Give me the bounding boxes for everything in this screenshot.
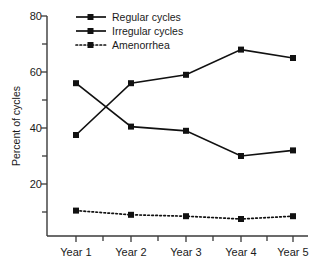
legend-marker-square — [88, 14, 94, 20]
y-tick-label-80: 80 — [30, 10, 42, 22]
data-point-marker[interactable] — [183, 128, 189, 134]
data-point-marker[interactable] — [238, 153, 244, 159]
x-tick-label-year-1: Year 1 — [60, 246, 91, 258]
x-tick-label-year-5: Year 5 — [277, 246, 308, 258]
x-axis-major-ticks — [76, 236, 293, 242]
legend-label: Amenorrhea — [112, 39, 170, 51]
legend-item-amenorrhea[interactable]: Amenorrhea — [76, 39, 170, 51]
data-point-marker[interactable] — [290, 147, 296, 153]
data-point-marker[interactable] — [128, 80, 134, 86]
legend-label: Regular cycles — [112, 11, 181, 23]
series-irregular-cycles — [73, 80, 296, 159]
series-line — [76, 83, 293, 156]
data-point-marker[interactable] — [290, 55, 296, 61]
chart-legend: Regular cycles Irregular cycles Amenorrh… — [76, 11, 183, 51]
data-point-marker[interactable] — [128, 212, 134, 218]
series-line — [76, 50, 293, 135]
legend-item-regular-cycles[interactable]: Regular cycles — [76, 11, 181, 23]
data-point-marker[interactable] — [183, 72, 189, 78]
series-amenorrhea — [73, 208, 296, 222]
data-point-marker[interactable] — [73, 208, 79, 214]
x-tick-label-year-2: Year 2 — [115, 246, 146, 258]
chart-figure: Percent of cycles 80 60 40 20 — [0, 0, 316, 265]
y-axis-title: Percent of cycles — [10, 86, 22, 166]
y-tick-label-60: 60 — [30, 66, 42, 78]
legend-marker-square — [88, 42, 94, 48]
data-point-marker[interactable] — [290, 213, 296, 219]
x-axis-minor-ticks — [103, 236, 267, 241]
data-point-marker[interactable] — [73, 132, 79, 138]
data-point-marker[interactable] — [238, 216, 244, 222]
legend-marker-square — [88, 28, 94, 34]
y-tick-label-40: 40 — [30, 122, 42, 134]
y-tick-label-20: 20 — [30, 178, 42, 190]
x-tick-label-year-3: Year 3 — [170, 246, 201, 258]
line-chart-canvas: Percent of cycles 80 60 40 20 — [0, 0, 316, 265]
data-point-marker[interactable] — [183, 213, 189, 219]
data-point-marker[interactable] — [73, 80, 79, 86]
data-series-layer — [73, 47, 296, 222]
data-point-marker[interactable] — [128, 124, 134, 130]
data-point-marker[interactable] — [238, 47, 244, 53]
x-tick-label-year-4: Year 4 — [225, 246, 256, 258]
series-regular-cycles — [73, 47, 296, 138]
legend-item-irregular-cycles[interactable]: Irregular cycles — [76, 25, 183, 37]
legend-label: Irregular cycles — [112, 25, 183, 37]
